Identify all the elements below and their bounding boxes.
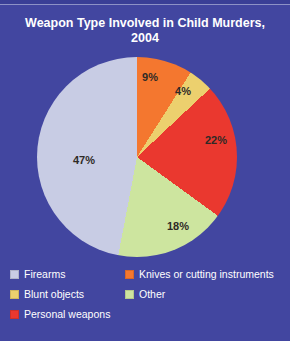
slice-label: 18%	[167, 220, 189, 232]
slice-label: 4%	[175, 85, 191, 97]
firearms-swatch-icon	[10, 270, 19, 279]
legend: Firearms Knives or cutting instruments B…	[10, 264, 288, 324]
slice-label: 47%	[73, 154, 95, 166]
legend-item-other: Other	[125, 289, 288, 300]
slice-label: 22%	[205, 134, 227, 146]
other-swatch-icon	[125, 290, 134, 299]
legend-label: Other	[139, 289, 165, 300]
legend-label: Knives or cutting instruments	[139, 269, 274, 280]
legend-label: Personal weapons	[24, 309, 110, 320]
personal-weapons-swatch-icon	[10, 310, 19, 319]
legend-item-blunt-objects: Blunt objects	[10, 289, 125, 300]
legend-label: Firearms	[24, 269, 65, 280]
blunt-objects-swatch-icon	[10, 290, 19, 299]
legend-item-personal-weapons: Personal weapons	[10, 309, 125, 320]
knives-swatch-icon	[125, 270, 134, 279]
pie-chart	[37, 57, 237, 257]
legend-item-firearms: Firearms	[10, 269, 125, 280]
slice-label: 9%	[142, 71, 158, 83]
legend-label: Blunt objects	[24, 289, 84, 300]
legend-item-knives: Knives or cutting instruments	[125, 269, 288, 280]
chart-panel: Weapon Type Involved in Child Murders, 2…	[0, 0, 290, 341]
